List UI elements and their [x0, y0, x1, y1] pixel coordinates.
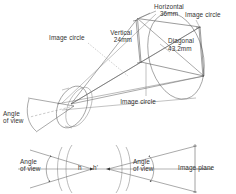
label-diagonal: Diagonal	[168, 37, 216, 44]
label-angle-of-view-right: Angle of view	[133, 158, 169, 173]
label-diagonal-value: 43.2mm	[168, 45, 216, 52]
label-angle-of-view-upper: Angle of view	[3, 110, 43, 125]
upper-cone-group	[27, 7, 213, 133]
label-image-circle-right: Image circle	[185, 11, 236, 18]
lens-element	[50, 81, 97, 133]
label-image-circle-bottom: Image circle	[110, 98, 166, 105]
label-angle-of-view-left: Angle of view	[20, 158, 56, 173]
image-circle-ellipse	[139, 7, 213, 105]
label-image-circle-left: Image circle	[49, 34, 105, 41]
label-image-plane: Image plane	[178, 164, 234, 171]
label-h: h	[78, 164, 88, 171]
label-h-prime: h'	[93, 164, 105, 171]
optics-diagram-figure: Horizontal 36mm Image circle Vertical 24…	[0, 0, 236, 194]
